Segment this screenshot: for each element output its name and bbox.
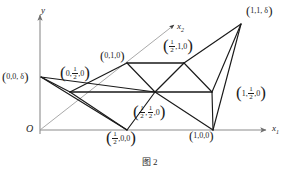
coord-text: 1,1, δ: [250, 7, 268, 15]
coord-text: 0,0, δ: [6, 73, 24, 81]
x1-axis-label: x1: [272, 124, 279, 135]
coord-pre: 1,: [242, 89, 248, 98]
fraction-second: 12: [148, 105, 154, 120]
x2-axis-label-sub: 2: [181, 27, 184, 33]
coord-post: ,0,0: [118, 134, 130, 143]
fraction-denominator: 2: [139, 113, 145, 120]
edge-010-to-hh0: [127, 63, 155, 92]
coord-post: ,0: [154, 108, 160, 117]
fraction: 12: [72, 66, 78, 81]
fraction-denominator: 2: [72, 74, 78, 81]
origin-label: O: [26, 124, 33, 134]
figure-caption: 图 2: [0, 155, 299, 168]
fraction: 12: [169, 39, 175, 54]
edge-0h0-to-h00: [70, 92, 127, 130]
x1-axis-label-sub: 1: [276, 129, 279, 135]
edge-00d-to-hh0: [41, 77, 155, 92]
fraction: 12: [112, 131, 118, 146]
vertex-label-1-0-0: (1,0,0): [189, 132, 214, 140]
fraction: 12: [248, 86, 254, 101]
vertex-label-0-half-0: (0,12,0): [60, 66, 90, 81]
coord-text: 1,0,0: [193, 132, 209, 140]
coord-text: 0,1,0: [104, 52, 120, 60]
y-axis-label: y: [41, 6, 45, 15]
edge-hh0-to-h10: [155, 63, 184, 92]
edge-h10-to-1h0: [184, 63, 212, 92]
fraction-denominator: 2: [148, 113, 154, 120]
fraction-denominator: 2: [169, 47, 175, 54]
fraction-denominator: 2: [248, 94, 254, 101]
vertex-label-1-half-0: (1,12,0): [236, 86, 266, 101]
x2-axis-label: x2: [177, 22, 184, 33]
edge-100-to-1h0: [212, 92, 213, 130]
vertex-label-0-1-0: (0,1,0): [100, 52, 125, 60]
fraction-denominator: 2: [112, 139, 118, 146]
vertex-label-0-0-delta: (0,0, δ): [2, 73, 28, 81]
vertex-label-half-0-0: (12,0,0): [106, 131, 136, 146]
vertex-label-half-1-0: (12,1,0): [163, 39, 193, 54]
coord-pre: 0,: [66, 69, 72, 78]
figure-container: y x1 x2 O (0,0, δ) (0,12,0) (0,1,0) (12,…: [0, 0, 299, 173]
vertex-label-half-half-0: (12,12,0): [133, 105, 165, 120]
vertex-label-1-1-delta: (1,1, δ): [246, 7, 272, 15]
fraction-first: 12: [139, 105, 145, 120]
coord-post: ,1,0: [175, 42, 187, 51]
